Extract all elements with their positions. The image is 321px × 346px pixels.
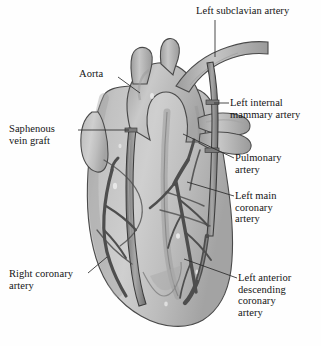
lima-anastomosis-band-1 [206, 100, 219, 105]
left-subclavian-artery-group [176, 42, 268, 92]
left-subclavian-artery [176, 42, 268, 92]
aorta-highlight [150, 93, 154, 99]
label-left-main-coronary-artery: Left main coronary artery [235, 190, 277, 225]
surface-highlight-5 [118, 144, 121, 148]
label-left-subclavian-artery: Left subclavian artery [196, 5, 289, 17]
label-saphenous-vein-graft: Saphenous vein graft [9, 123, 55, 146]
anatomical-figure: Left subclavian artery Aorta Left intern… [0, 0, 321, 346]
label-left-internal-mammary-artery: Left internal mammary artery [230, 97, 300, 120]
surface-highlight-2 [176, 233, 180, 239]
label-left-anterior-descending-coronary-artery: Left anterior descending coronary artery [238, 272, 291, 318]
label-right-coronary-artery: Right coronary artery [9, 268, 73, 291]
label-aorta: Aorta [79, 68, 103, 80]
surface-highlight-1 [113, 183, 117, 189]
label-pulmonary-artery: Pulmonary artery [235, 152, 282, 175]
surface-highlight-4 [164, 302, 168, 307]
